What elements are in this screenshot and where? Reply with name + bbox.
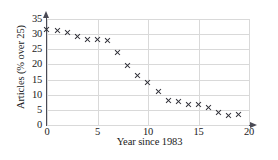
gridline-vertical <box>98 19 99 125</box>
data-point-marker <box>124 62 131 69</box>
data-point-marker <box>64 29 71 36</box>
x-tick-label: 15 <box>189 127 209 137</box>
x-axis-title: Year since 1983 <box>47 136 252 147</box>
data-point-marker <box>225 112 232 119</box>
x-tick-label: 5 <box>88 127 108 137</box>
x-tick-label: 0 <box>37 127 57 137</box>
gridline-vertical <box>47 19 48 125</box>
data-point-marker <box>94 36 101 43</box>
x-tick-label: 20 <box>239 127 259 137</box>
y-axis-title: Articles (% over 25) <box>14 2 28 132</box>
data-point-marker <box>165 97 172 104</box>
data-point-marker <box>104 37 111 44</box>
data-point-marker <box>195 101 202 108</box>
data-point-marker <box>145 79 152 86</box>
data-point-marker <box>175 98 182 105</box>
data-point-marker <box>205 104 212 111</box>
data-point-marker <box>74 33 81 40</box>
y-axis-arrowhead <box>43 11 49 18</box>
data-point-marker <box>235 111 242 118</box>
gridline-vertical <box>148 19 149 125</box>
data-point-marker <box>134 72 141 79</box>
data-point-marker <box>44 26 51 33</box>
scatter-chart-figure: 05101520253035 Articles (% over 25) Year… <box>0 0 278 160</box>
data-point-marker <box>215 109 222 116</box>
plot-area <box>47 19 249 125</box>
data-point-marker <box>155 88 162 95</box>
gridline-vertical <box>199 19 200 125</box>
data-point-marker <box>54 27 61 34</box>
data-point-marker <box>185 101 192 108</box>
data-point-marker <box>114 49 121 56</box>
data-point-marker <box>84 36 91 43</box>
x-tick-label: 10 <box>138 127 158 137</box>
gridline-vertical <box>249 19 250 125</box>
